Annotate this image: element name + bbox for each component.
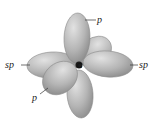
orbital-diagram: C p sp sp p <box>0 0 158 127</box>
label-sp-right: sp <box>139 59 148 70</box>
label-sp-left: sp <box>5 59 14 70</box>
label-p-bottom: p <box>31 92 37 103</box>
label-p-top: p <box>96 14 102 25</box>
carbon-label: C <box>77 61 83 70</box>
